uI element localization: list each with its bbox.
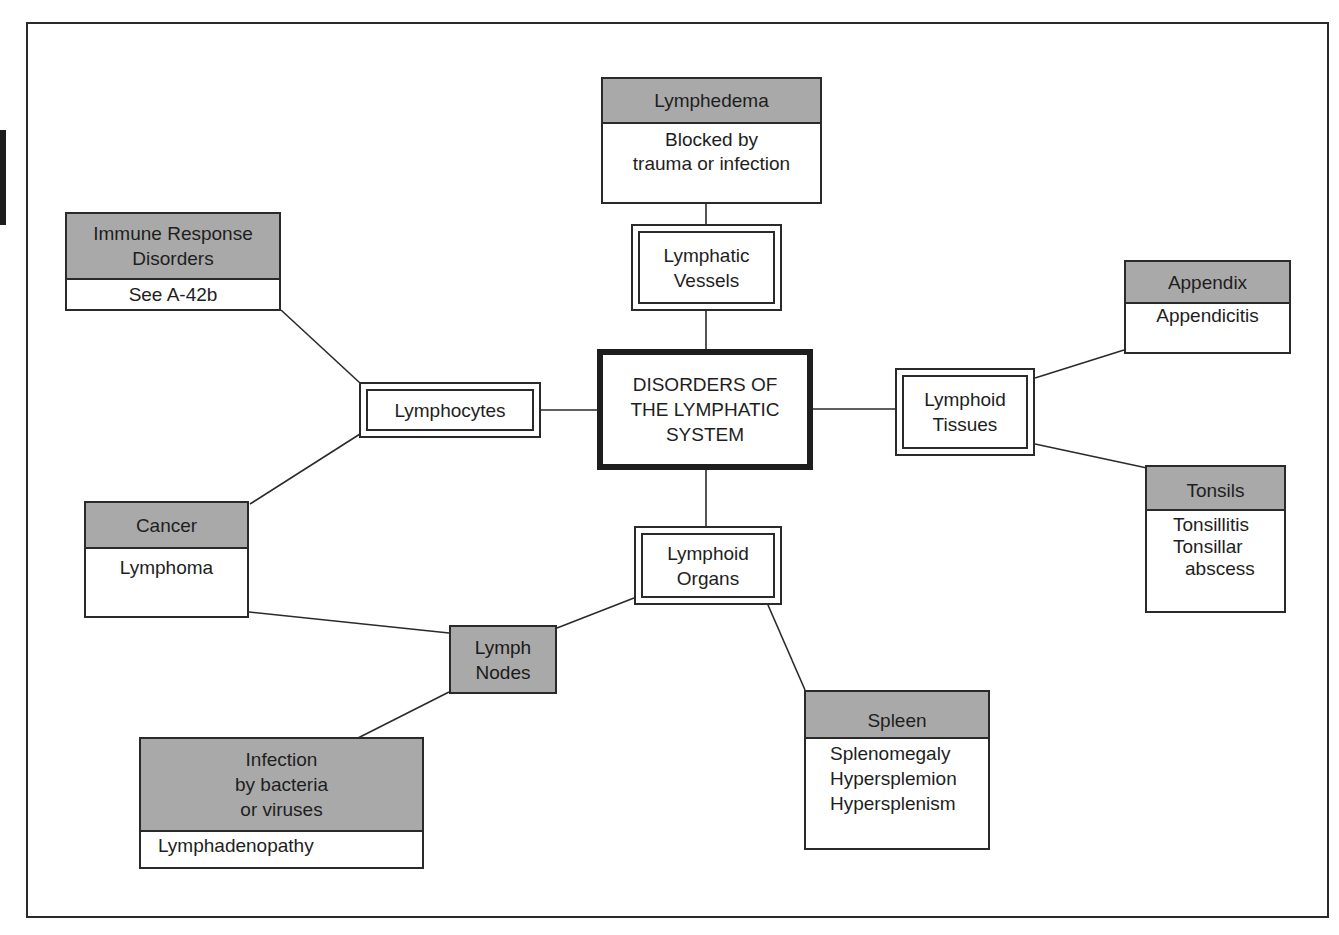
box-body: Blocked by trauma or infection: [603, 124, 820, 202]
header-text: or viruses: [240, 797, 322, 822]
node-lymphoid-tissues: Lymphoid Tissues: [895, 368, 1035, 456]
header-text: Infection: [246, 747, 318, 772]
box-spleen: Spleen Splenomegaly Hypersplemion Hypers…: [804, 690, 990, 850]
link-tissues-tonsils: [1035, 444, 1147, 468]
box-body: Splenomegaly Hypersplemion Hypersplenism: [806, 739, 988, 848]
link-lymphocytes-immune: [281, 310, 360, 383]
body-text: Hypersplenism: [830, 791, 956, 816]
box-body: Lymphoma: [86, 549, 247, 616]
label: Organs: [677, 566, 739, 591]
header-text: Appendix: [1168, 270, 1247, 295]
node-lymphatic-vessels: Lymphatic Vessels: [631, 224, 782, 311]
box-header: Spleen: [806, 692, 988, 739]
box-lymphedema: Lymphedema Blocked by trauma or infectio…: [601, 77, 822, 204]
center-line-2: THE LYMPHATIC: [630, 397, 779, 422]
center-line-1: DISORDERS OF: [633, 372, 778, 397]
body-text: Appendicitis: [1156, 304, 1258, 328]
box-header: Cancer: [86, 503, 247, 549]
header-text: Lymphedema: [654, 88, 768, 113]
box-tonsils: Tonsils Tonsillitis Tonsillar abscess: [1145, 465, 1286, 613]
body-text: Tonsillitis: [1173, 514, 1249, 536]
node-lymphoid-organs: Lymphoid Organs: [634, 526, 782, 605]
label: Lymphoid: [924, 387, 1006, 412]
link-organs-nodes: [557, 598, 634, 628]
header-text: Spleen: [867, 708, 926, 733]
box-header: Immune Response Disorders: [67, 214, 279, 280]
box-body: Lymphadenopathy: [141, 832, 422, 867]
header-text: Cancer: [136, 513, 197, 538]
label: Tissues: [933, 412, 998, 437]
label: Vessels: [674, 268, 739, 293]
body-text: Splenomegaly: [830, 741, 950, 766]
box-header: Lymphedema: [603, 79, 820, 124]
header-text: Immune Response: [93, 221, 252, 246]
box-body: See A-42b: [67, 280, 279, 309]
header-text: Tonsils: [1186, 478, 1244, 503]
link-tissues-appendix: [1035, 350, 1124, 378]
box-header: Appendix: [1126, 262, 1289, 304]
box-body: Tonsillitis Tonsillar abscess: [1147, 511, 1284, 611]
box-header: Tonsils: [1147, 467, 1284, 511]
label: Lymph: [475, 635, 531, 660]
header-text: by bacteria: [235, 772, 328, 797]
box-appendix: Appendix Appendicitis: [1124, 260, 1291, 354]
body-text: trauma or infection: [633, 152, 790, 176]
body-text: See A-42b: [129, 283, 218, 307]
link-lymphocytes-cancer: [250, 434, 360, 504]
box-infection: Infection by bacteria or viruses Lymphad…: [139, 737, 424, 869]
body-text: Lymphadenopathy: [158, 834, 314, 858]
center-node-disorders: DISORDERS OF THE LYMPHATIC SYSTEM: [597, 349, 813, 470]
header-text: Disorders: [132, 246, 213, 271]
link-organs-spleen: [768, 605, 805, 690]
center-line-3: SYSTEM: [666, 422, 744, 447]
body-text: Tonsillar: [1173, 536, 1243, 558]
label: Nodes: [476, 660, 531, 685]
body-text: Lymphoma: [120, 556, 213, 580]
box-cancer: Cancer Lymphoma: [84, 501, 249, 618]
node-lymphocytes: Lymphocytes: [359, 382, 541, 438]
link-nodes-infection: [358, 692, 449, 738]
body-text: Blocked by: [665, 128, 758, 152]
box-immune-response-disorders: Immune Response Disorders See A-42b: [65, 212, 281, 311]
node-lymph-nodes: Lymph Nodes: [449, 625, 557, 694]
box-header: Infection by bacteria or viruses: [141, 739, 422, 832]
box-body: Appendicitis: [1126, 304, 1289, 352]
label: Lymphatic: [664, 243, 750, 268]
body-text: Hypersplemion: [830, 766, 957, 791]
link-nodes-cancer: [249, 612, 449, 633]
body-text: abscess: [1173, 558, 1255, 580]
label: Lymphoid: [667, 541, 749, 566]
label: Lymphocytes: [394, 398, 505, 423]
